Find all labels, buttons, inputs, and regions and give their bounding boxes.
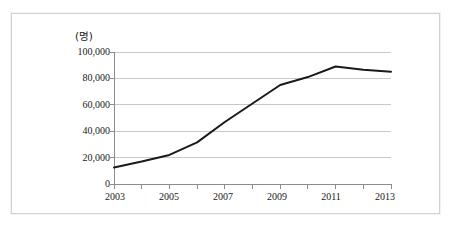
y-axis-ticks <box>109 52 114 184</box>
screenshot-root: (명) 100,000 80,000 60,000 40,000 20,000 … <box>0 0 452 230</box>
x-axis-ticks <box>114 184 391 189</box>
line-chart-plot <box>12 14 441 215</box>
figure-frame: (명) 100,000 80,000 60,000 40,000 20,000 … <box>11 13 440 214</box>
chart-area: (명) 100,000 80,000 60,000 40,000 20,000 … <box>12 14 441 215</box>
data-series-line <box>114 67 391 168</box>
axis-lines <box>114 52 391 184</box>
